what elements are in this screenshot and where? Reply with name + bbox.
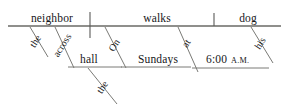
word-preposition-on: On [106, 37, 122, 53]
word-preposition-at: at [179, 37, 192, 49]
word-possessive-his: his [252, 35, 268, 51]
word-object-time-meridiem: A.M. [231, 56, 249, 65]
word-direct-object-dog: dog [239, 12, 257, 25]
word-subject-neighbor: neighbor [31, 12, 73, 25]
word-preposition-across: across [51, 31, 74, 59]
word-article-the-subject: the [27, 33, 43, 50]
sentence-diagram-svg: neighbor walks dog the across hall the O… [0, 0, 286, 111]
word-object-hall: hall [80, 53, 98, 65]
word-verb-walks: walks [143, 12, 171, 24]
word-object-time: 6:00 [206, 53, 227, 65]
sentence-diagram-canvas: neighbor walks dog the across hall the O… [0, 0, 286, 111]
word-object-sundays: Sundays [138, 53, 178, 66]
